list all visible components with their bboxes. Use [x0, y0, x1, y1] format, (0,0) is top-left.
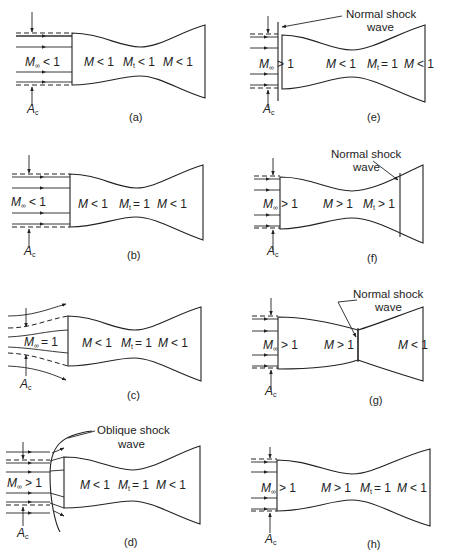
normal-shock-label: Normal shock — [331, 148, 402, 160]
region-mach-exit: M< 1 — [163, 55, 193, 69]
capture-area-label: Ac — [264, 384, 277, 398]
capture-area-label: Ac — [266, 244, 279, 258]
capture-area-label: Ac — [262, 102, 275, 116]
panel-h: M∞> 1 M> 1 Mt= 1 M< 1 Ac (h) — [251, 447, 430, 550]
region-mach-inlet: M> 1 — [323, 197, 353, 211]
panel-caption: (g) — [369, 394, 382, 406]
region-mach-throat: Mt= 1 — [360, 481, 391, 495]
region-mach-throat: Mt= 1 — [119, 197, 150, 211]
annotation-leader — [282, 16, 342, 27]
deflected-streamline-bottom — [54, 511, 64, 516]
nozzle-outline — [277, 449, 430, 526]
panel-g: M∞> 1 M> 1 M< 1 Normal shock wave Ac (g) — [252, 288, 428, 406]
capture-area-label: Ac — [19, 377, 32, 391]
freestream-mach-label: M∞> 1 — [263, 338, 298, 352]
normal-shock-label-line2: wave — [366, 21, 394, 33]
panel-caption: (h) — [367, 538, 380, 550]
region-mach-exit: M< 1 — [404, 57, 434, 71]
region-mach-throat: Mt> 1 — [363, 197, 395, 211]
capture-area-label: Ac — [23, 244, 36, 258]
streamline-arrow — [8, 330, 68, 337]
panel-e: M∞> 1 M< 1 Mt= 1 M< 1 Normal shock wave … — [250, 8, 434, 123]
region-mach-inlet: M< 1 — [326, 57, 356, 71]
annotation-leader — [68, 431, 95, 438]
region-mach-inlet: M< 1 — [84, 55, 114, 69]
region-mach-exit: M< 1 — [157, 197, 187, 211]
normal-shock-label-line2: wave — [374, 301, 402, 313]
region-mach-throat: Mt< 1 — [123, 55, 155, 69]
deflected-streamline-top — [52, 448, 64, 453]
oblique-shock-label: Oblique shock — [97, 424, 170, 436]
normal-shock-label: Normal shock — [346, 8, 417, 20]
region-mach-exit: M< 1 — [397, 481, 427, 495]
panel-a: M∞< 1 M< 1 Mt< 1 M< 1 Ac (a) — [16, 12, 205, 123]
capture-area-label: Ac — [16, 526, 29, 540]
freestream-mach-label: M∞> 1 — [263, 197, 298, 211]
panel-caption: (f) — [367, 252, 377, 264]
panel-f: M∞> 1 M> 1 Mt> 1 Normal shock wave Ac (f… — [254, 148, 423, 264]
oblique-shock-label-line2: wave — [117, 438, 145, 450]
annotation-leader — [338, 300, 357, 337]
region-mach-inlet: M< 1 — [80, 478, 110, 492]
capture-area-label: Ac — [26, 102, 39, 116]
region-mach-inlet: M> 1 — [321, 481, 351, 495]
panel-caption: (a) — [129, 111, 142, 123]
freestream-mach-label: M∞= 1 — [24, 335, 58, 349]
capture-area-label: Ac — [264, 532, 277, 546]
freestream-mach-label: M∞> 1 — [7, 476, 42, 490]
panel-b: M∞< 1 M< 1 Mt= 1 M< 1 Ac (b) — [11, 155, 203, 261]
freestream-mach-label: M∞> 1 — [259, 57, 294, 71]
capture-streamline-top — [8, 316, 68, 328]
spill-streamline-bottom — [8, 366, 66, 380]
region-mach-throat: Mt= 1 — [367, 57, 398, 71]
region-mach-supersonic: M> 1 — [324, 338, 354, 352]
diffuser-flow-regimes-figure: M∞< 1 M< 1 Mt< 1 M< 1 Ac (a) M∞< 1 M< 1 … — [0, 0, 460, 558]
panel-caption: (b) — [127, 249, 140, 261]
region-mach-exit: M< 1 — [158, 336, 188, 350]
region-mach-throat: Mt= 1 — [118, 478, 149, 492]
capture-streamline-bottom — [8, 353, 68, 366]
panel-caption: (d) — [124, 536, 137, 548]
spill-streamline-top — [8, 304, 66, 316]
freestream-mach-label: M∞> 1 — [261, 481, 296, 495]
freestream-mach-label: M∞< 1 — [11, 195, 46, 209]
region-mach-inlet: M< 1 — [78, 197, 108, 211]
panel-caption: (e) — [367, 111, 380, 123]
region-mach-inlet: M< 1 — [82, 336, 112, 350]
region-mach-throat: Mt= 1 — [121, 336, 152, 350]
normal-shock-label: Normal shock — [353, 288, 424, 300]
freestream-mach-label: M∞< 1 — [25, 55, 60, 69]
region-mach-subsonic: M< 1 — [398, 338, 428, 352]
panel-d: M∞> 1 M< 1 Mt= 1 M< 1 Oblique shock wave… — [6, 424, 200, 548]
region-mach-exit: M< 1 — [156, 478, 186, 492]
panel-c: M∞= 1 M< 1 Mt= 1 M< 1 Ac (c) — [8, 304, 201, 401]
panel-caption: (c) — [127, 389, 140, 401]
